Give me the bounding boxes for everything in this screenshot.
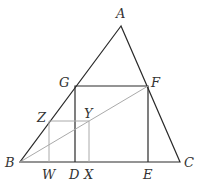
label-z: Z <box>36 110 47 125</box>
label-d: D <box>68 167 80 182</box>
label-f: F <box>150 75 161 90</box>
label-e: E <box>142 167 153 182</box>
square-defg <box>75 86 148 162</box>
label-c: C <box>184 155 194 170</box>
label-y: Y <box>84 106 94 121</box>
label-b: B <box>4 155 15 170</box>
label-a: A <box>115 6 125 21</box>
geometry-diagram: A B C G F Z Y W D X E <box>0 0 207 191</box>
label-w: W <box>42 167 57 182</box>
label-x: X <box>83 167 94 182</box>
label-g: G <box>59 75 69 90</box>
triangle-abc <box>20 26 180 162</box>
